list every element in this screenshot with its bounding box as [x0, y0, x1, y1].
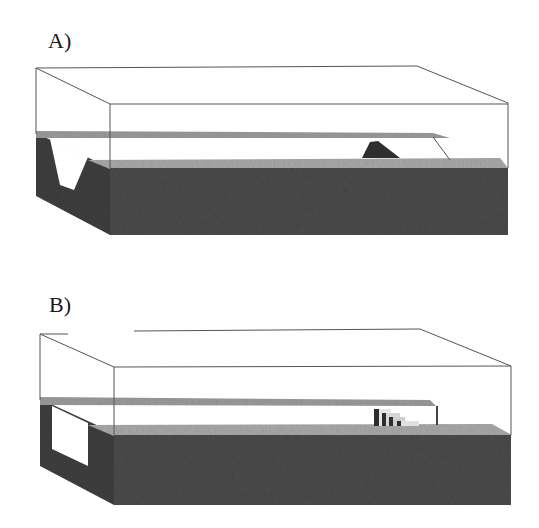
panel-a-diagram: [36, 66, 508, 235]
panel-b-outline: [40, 329, 511, 435]
panel-b-diagram: [40, 329, 512, 505]
panel-a-outline: [36, 66, 508, 168]
block-diagram-figure: [0, 0, 539, 528]
panel-b-front-block: [114, 435, 511, 505]
panel-a-front-block: [110, 168, 508, 235]
panel-a-sediment-top: [88, 158, 508, 169]
panel-b-sediment-top: [88, 424, 512, 436]
panel-b-stepped-blocks: [374, 406, 438, 426]
panel-b-water-band: [40, 397, 436, 406]
panel-a-water-band: [36, 131, 450, 138]
panel-a-mound: [362, 141, 400, 158]
